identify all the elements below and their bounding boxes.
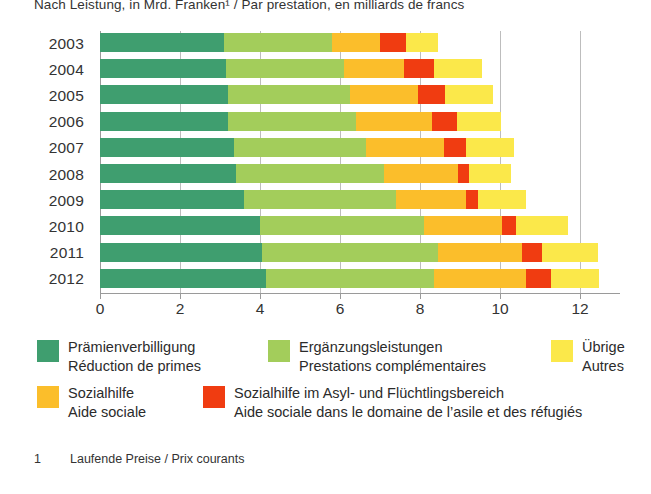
legend-item[interactable]: ErgänzungsleistungenPrestations compléme… [268, 338, 486, 376]
bar-segment[interactable] [424, 216, 502, 235]
bar-segment[interactable] [380, 33, 406, 52]
bar-segment[interactable] [244, 190, 396, 209]
legend-item[interactable]: Sozialhilfe im Asyl- und Flüchtlingsbere… [203, 384, 582, 422]
legend: PrämienverbilligungRéduction de primesEr… [0, 338, 651, 430]
legend-row-1: PrämienverbilligungRéduction de primesEr… [0, 338, 651, 384]
y-axis-label-2009: 2009 [0, 191, 84, 210]
bar-segment[interactable] [100, 59, 226, 78]
bar-segment[interactable] [350, 85, 418, 104]
bar-segment[interactable] [445, 85, 493, 104]
legend-item[interactable]: ÜbrigeAutres [551, 338, 625, 376]
bar-segment[interactable] [100, 216, 260, 235]
bar-segment[interactable] [406, 33, 438, 52]
legend-label: ErgänzungsleistungenPrestations compléme… [299, 338, 486, 376]
bar-row-2012[interactable] [100, 269, 620, 288]
bar-segment[interactable] [356, 112, 432, 131]
bar-segment[interactable] [434, 59, 482, 78]
x-axis-ticks: 024681012 [100, 294, 620, 320]
bar-segment[interactable] [100, 85, 228, 104]
bar-segment[interactable] [100, 33, 224, 52]
legend-row-2: SozialhilfeAide socialeSozialhilfe im As… [0, 384, 651, 430]
bar-segment[interactable] [228, 112, 356, 131]
bar-segment[interactable] [432, 112, 457, 131]
legend-label-de: Übrige [582, 339, 625, 355]
footnote: 1 Laufende Preise / Prix courants [34, 452, 244, 466]
bar-segment[interactable] [551, 269, 599, 288]
bar-segment[interactable] [234, 138, 366, 157]
bar-segment[interactable] [100, 164, 236, 183]
bar-segment[interactable] [262, 243, 438, 262]
bar-segment[interactable] [526, 269, 551, 288]
legend-item[interactable]: PrämienverbilligungRéduction de primes [37, 338, 201, 376]
legend-label: SozialhilfeAide sociale [68, 384, 146, 422]
bar-segment[interactable] [236, 164, 384, 183]
bar-segment[interactable] [542, 243, 598, 262]
bar-segment[interactable] [444, 138, 466, 157]
legend-label-de: Sozialhilfe im Asyl- und Flüchtlingsbere… [234, 385, 504, 401]
bar-segment[interactable] [228, 85, 350, 104]
bar-segment[interactable] [100, 112, 228, 131]
bar-row-2007[interactable] [100, 138, 620, 157]
x-tick-label-2: 2 [176, 300, 185, 318]
bar-row-2009[interactable] [100, 190, 620, 209]
bar-segment[interactable] [466, 138, 514, 157]
bar-segment[interactable] [260, 216, 424, 235]
x-tick-label-0: 0 [96, 300, 105, 318]
legend-label-fr: Aide sociale dans le domaine de l’asile … [234, 403, 582, 422]
legend-label-fr: Autres [582, 357, 625, 376]
bar-row-2005[interactable] [100, 85, 620, 104]
bar-segment[interactable] [266, 269, 434, 288]
y-axis-category-labels: 2003200420052006200720082009201020112012 [0, 31, 96, 293]
legend-label-fr: Prestations complémentaires [299, 357, 486, 376]
bar-segment[interactable] [522, 243, 542, 262]
bar-segment[interactable] [224, 33, 332, 52]
bar-segment[interactable] [516, 216, 568, 235]
bar-segment[interactable] [466, 190, 478, 209]
chart-title: Nach Leistung, in Mrd. Franken¹ / Par pr… [34, 0, 464, 12]
bar-segment[interactable] [100, 243, 262, 262]
x-tick-label-4: 4 [256, 300, 265, 318]
legend-item[interactable]: SozialhilfeAide sociale [37, 384, 146, 422]
bar-segment[interactable] [226, 59, 344, 78]
y-axis-label-2007: 2007 [0, 138, 84, 157]
footnote-text: Laufende Preise / Prix courants [70, 452, 244, 466]
legend-label: Sozialhilfe im Asyl- und Flüchtlingsbere… [234, 384, 582, 422]
bar-segment[interactable] [384, 164, 458, 183]
bar-segment[interactable] [438, 243, 522, 262]
legend-label-de: Ergänzungsleistungen [299, 339, 443, 355]
bar-segment[interactable] [469, 164, 511, 183]
bar-row-2003[interactable] [100, 33, 620, 52]
bar-segment[interactable] [434, 269, 526, 288]
x-tickmark-10 [500, 294, 501, 299]
x-tickmark-2 [180, 294, 181, 299]
bar-segment[interactable] [344, 59, 404, 78]
bar-segment[interactable] [418, 85, 445, 104]
y-axis-label-2006: 2006 [0, 112, 84, 131]
bar-segment[interactable] [404, 59, 434, 78]
bar-segment[interactable] [100, 269, 266, 288]
bar-segment[interactable] [457, 112, 501, 131]
bar-row-2010[interactable] [100, 216, 620, 235]
bar-rows [100, 31, 620, 293]
bar-segment[interactable] [100, 190, 244, 209]
bar-segment[interactable] [366, 138, 444, 157]
legend-swatch-icon [37, 386, 59, 408]
bar-row-2006[interactable] [100, 112, 620, 131]
x-tick-label-8: 8 [416, 300, 425, 318]
x-tickmark-12 [580, 294, 581, 299]
bar-row-2008[interactable] [100, 164, 620, 183]
bar-row-2011[interactable] [100, 243, 620, 262]
x-tick-label-6: 6 [336, 300, 345, 318]
bar-segment[interactable] [458, 164, 469, 183]
bar-row-2004[interactable] [100, 59, 620, 78]
x-tickmark-0 [100, 294, 101, 299]
legend-label-de: Sozialhilfe [68, 385, 134, 401]
bar-segment[interactable] [396, 190, 466, 209]
legend-label: ÜbrigeAutres [582, 338, 625, 376]
bar-segment[interactable] [100, 138, 234, 157]
legend-label-fr: Réduction de primes [68, 357, 201, 376]
legend-swatch-icon [37, 340, 59, 362]
bar-segment[interactable] [502, 216, 516, 235]
bar-segment[interactable] [332, 33, 380, 52]
bar-segment[interactable] [478, 190, 526, 209]
